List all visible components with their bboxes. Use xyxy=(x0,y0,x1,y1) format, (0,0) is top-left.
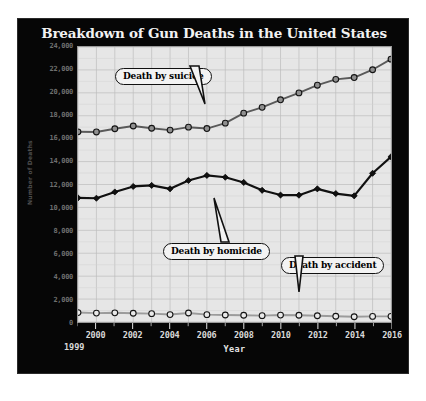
x-axis-tick-label: 2006 xyxy=(197,330,217,340)
annotation-death-by-homicide: Death by homicide xyxy=(163,243,270,260)
y-axis-tick-label: 20,000 xyxy=(21,88,73,96)
y-axis-tick-label: 4,000 xyxy=(21,273,73,281)
y-axis-tick-label: 8,000 xyxy=(21,227,73,235)
plot-area xyxy=(77,46,392,323)
y-axis-tick-label: 6,000 xyxy=(21,250,73,258)
x-axis-tick-label: 2014 xyxy=(345,330,365,340)
y-axis-tick-label: 22,000 xyxy=(21,65,73,73)
chart-title: Breakdown of Gun Deaths in the United St… xyxy=(18,25,409,41)
chart-plot-svg xyxy=(78,47,391,322)
plot-wrapper: Death by suicide Death by homicide Death… xyxy=(77,46,392,323)
x-axis-tick-label: 2000 xyxy=(86,330,106,340)
x-axis-tick-label: 2008 xyxy=(234,330,254,340)
x-axis-tick-label: 2010 xyxy=(271,330,291,340)
x-axis-tick-marks xyxy=(77,323,392,330)
annotation-death-by-accident: Death by accident xyxy=(281,257,384,274)
chart-figure: Breakdown of Gun Deaths in the United St… xyxy=(17,18,409,374)
x-axis-label: Year xyxy=(77,344,392,354)
y-axis-tick-label: 0 xyxy=(21,319,73,327)
annotation-death-by-suicide: Death by suicide xyxy=(115,68,212,85)
x-axis-tick-label: 2002 xyxy=(123,330,143,340)
x-axis-tick-label: 2004 xyxy=(160,330,180,340)
y-axis-label: Number of Deaths xyxy=(26,118,33,228)
x-axis-ticks: 200020022004200620082010201220142016 xyxy=(77,330,392,344)
y-axis-tick-label: 2,000 xyxy=(21,296,73,304)
x-axis-tick-label: 2016 xyxy=(382,330,402,340)
x-axis-tick-label: 2012 xyxy=(308,330,328,340)
y-axis-tick-label: 24,000 xyxy=(21,42,73,50)
